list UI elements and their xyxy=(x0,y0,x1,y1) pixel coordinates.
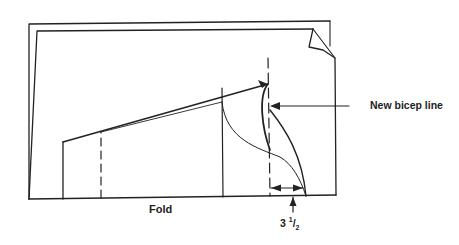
new-bicep-line-label: New bicep line xyxy=(370,99,443,111)
measurement-label: 3 1/2 xyxy=(280,216,300,231)
arrowhead-icon xyxy=(270,102,280,110)
paper-sheet-inner xyxy=(29,29,313,199)
sleeve-pattern-diagram xyxy=(0,0,459,245)
original-sleeve-cap xyxy=(222,102,306,196)
fold-label: Fold xyxy=(149,203,172,215)
arrowhead-icon xyxy=(271,185,281,192)
fold-line xyxy=(29,195,336,199)
arrowhead-icon xyxy=(290,197,297,206)
sleeve-top-edge-new xyxy=(63,84,268,142)
bicep-dashed-line xyxy=(268,58,270,196)
measurement-denominator: 2 xyxy=(296,224,300,231)
measurement-numerator: 1 xyxy=(289,216,293,223)
measurement-whole: 3 xyxy=(280,217,286,229)
arrowhead-icon xyxy=(293,185,303,192)
sleeve-top-edge-original xyxy=(101,102,222,132)
paper-sheet-outer xyxy=(29,21,330,199)
